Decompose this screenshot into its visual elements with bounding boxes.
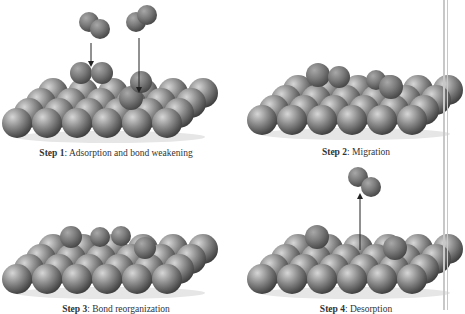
panel-step3: [2, 226, 218, 299]
surface-atom: [2, 264, 32, 294]
surface-atom: [92, 264, 122, 294]
caption-step4: Step 4: Desorption: [320, 304, 392, 314]
surface-atom: [92, 108, 122, 138]
step-label: Step 3: [62, 304, 87, 314]
surface-atom: [32, 264, 62, 294]
adsorbed-atom: [328, 66, 350, 88]
surface-atom: [307, 105, 337, 135]
step-description: : Migration: [347, 147, 390, 157]
adsorbed-atom: [130, 71, 152, 93]
edge-line-1: [443, 0, 445, 310]
caption-step2: Step 2: Migration: [322, 147, 390, 157]
step-description: : Bond reorganization: [87, 304, 170, 314]
step-label: Step 4: [320, 304, 345, 314]
molecule-atom: [361, 177, 381, 197]
adsorbed-atom: [305, 225, 329, 249]
adsorbed-atom: [383, 236, 407, 260]
molecule-atom: [91, 62, 113, 84]
adsorbed-atom: [111, 226, 131, 246]
caption-step1: Step 1: Adsorption and bond weakening: [39, 148, 192, 158]
adsorbed-atom: [134, 237, 156, 259]
surface-atom: [62, 264, 92, 294]
surface-atom: [397, 105, 427, 135]
surface-atom: [307, 264, 337, 294]
surface-atom: [32, 108, 62, 138]
adsorbed-atom: [60, 226, 82, 248]
surface-atom: [367, 105, 397, 135]
molecule-atom: [70, 62, 92, 84]
adsorbed-atom: [379, 75, 403, 99]
molecule-atom: [137, 5, 157, 25]
edge-line-2: [447, 0, 448, 310]
surface-atom: [122, 264, 152, 294]
step-description: : Desorption: [345, 304, 392, 314]
step-label: Step 2: [322, 147, 347, 157]
surface-atom: [277, 264, 307, 294]
adsorbed-atom: [306, 63, 330, 87]
surface-atom: [337, 105, 367, 135]
adsorbed-atom: [90, 227, 110, 247]
surface-atom: [122, 108, 152, 138]
panel-step4: [247, 167, 463, 299]
surface-atom: [247, 264, 277, 294]
surface-atom: [247, 105, 277, 135]
surface-atom: [62, 108, 92, 138]
surface-atom: [337, 264, 367, 294]
panel-step1: [2, 5, 218, 143]
surface-atom: [152, 108, 182, 138]
surface-atom: [2, 108, 32, 138]
molecule-atom: [90, 19, 110, 39]
surface-atom: [277, 105, 307, 135]
surface-atom: [367, 264, 397, 294]
caption-step3: Step 3: Bond reorganization: [62, 304, 170, 314]
surface-atom: [397, 264, 427, 294]
surface-atom: [152, 264, 182, 294]
step-label: Step 1: [39, 148, 64, 158]
step-description: : Adsorption and bond weakening: [64, 148, 192, 158]
panel-step2: [247, 63, 463, 140]
